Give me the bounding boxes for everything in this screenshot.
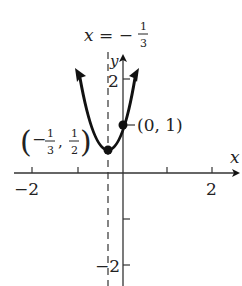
svg-text:1: 1 (71, 127, 78, 140)
svg-text:2: 2 (71, 144, 78, 157)
x-ticks (32, 167, 212, 173)
graph: x = − 1 3 y x −2 2 2 −2 (0, 1) ( − 1 3 ,… (0, 0, 242, 286)
tick-label-x-pos2: 2 (206, 179, 217, 199)
axis-of-symmetry-label: x = − (84, 25, 133, 45)
y-axis-label: y (109, 52, 119, 70)
tick-label-y-pos2: 2 (108, 71, 119, 91)
intercept-label: (0, 1) (137, 115, 183, 135)
x-axis-label: x (230, 147, 240, 167)
svg-text:): ) (80, 124, 92, 159)
axis-frac-num: 1 (140, 20, 147, 33)
tick-label-y-neg2: −2 (95, 256, 120, 276)
vertex-point (104, 146, 113, 155)
svg-text:1: 1 (47, 127, 54, 140)
svg-text:−: − (32, 129, 46, 149)
svg-text:,: , (58, 133, 63, 151)
svg-text:3: 3 (47, 144, 54, 157)
axis-frac-den: 3 (140, 37, 147, 50)
svg-text:(: ( (20, 124, 32, 159)
tick-label-x-neg2: −2 (14, 179, 39, 199)
vertex-label: ( − 1 3 , 1 2 ) (20, 124, 92, 159)
intercept-point (119, 121, 128, 130)
